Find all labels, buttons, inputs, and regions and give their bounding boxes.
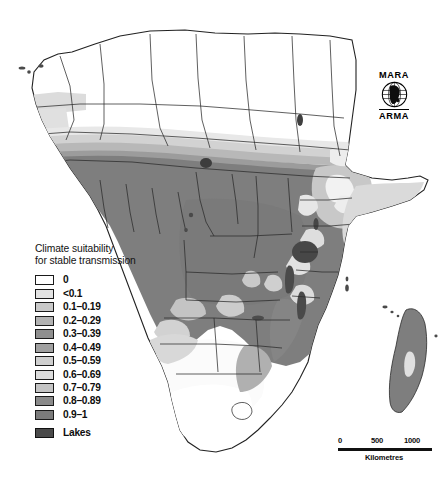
island-comoros-2 xyxy=(390,311,393,314)
legend-label-4: 0.3–0.39 xyxy=(63,329,101,339)
scalebar-caption: Kilometres xyxy=(338,453,430,462)
region-somalia-lowland xyxy=(342,182,424,248)
legend-label-2: 0.1–0.19 xyxy=(63,302,101,312)
scalebar-tick-500: 500 xyxy=(371,437,383,445)
legend-swatch-6 xyxy=(35,356,54,366)
legend-label-10: 0.9–1 xyxy=(63,410,87,420)
island-comoros-3 xyxy=(397,315,400,317)
lake-nasser xyxy=(297,114,303,126)
mara-arma-logo: MARA ARMA xyxy=(366,70,422,121)
island-mauritius xyxy=(434,335,437,338)
lake-chad xyxy=(200,158,212,168)
legend-item-9[interactable]: 0.8–0.89 xyxy=(35,395,195,408)
legend-swatch-8 xyxy=(35,383,54,393)
legend-label-3: 0.2–0.29 xyxy=(63,316,101,326)
legend-title-line-2: for stable transmission xyxy=(35,255,195,267)
legend-item-4[interactable]: 0.3–0.39 xyxy=(35,328,195,341)
legend-item-1[interactable]: <0.1 xyxy=(35,287,195,300)
legend-label-6: 0.5–0.59 xyxy=(63,356,101,366)
legend-label-8: 0.7–0.79 xyxy=(63,383,101,393)
legend-title-line-1: Climate suitability xyxy=(35,243,195,255)
legend-swatch-0 xyxy=(35,275,54,285)
legend-swatch-1 xyxy=(35,289,54,299)
map-figure: Climate suitability for stable transmiss… xyxy=(0,0,445,478)
island-madeira xyxy=(38,64,43,67)
legend-item-8[interactable]: 0.7–0.79 xyxy=(35,382,195,395)
legend-item-lakes[interactable]: Lakes xyxy=(35,427,195,440)
madagascar xyxy=(389,309,426,413)
island-zanzibar xyxy=(345,284,349,291)
map-scalebar: 0 500 1000 Kilometres xyxy=(338,437,438,462)
map-legend: Climate suitability for stable transmiss… xyxy=(35,243,195,440)
island-canary-1 xyxy=(19,66,26,69)
logo-text-arma: ARMA xyxy=(366,109,422,121)
legend-swatch-2 xyxy=(35,302,54,312)
globe-icon xyxy=(381,81,408,108)
island-canary-2 xyxy=(27,70,31,74)
legend-item-3[interactable]: 0.2–0.29 xyxy=(35,314,195,327)
island-sao-tome xyxy=(184,228,188,232)
legend-label-9: 0.8–0.89 xyxy=(63,396,101,406)
scalebar-tick-0: 0 xyxy=(338,437,342,445)
scalebar-line xyxy=(338,448,432,451)
legend-item-2[interactable]: 0.1–0.19 xyxy=(35,301,195,314)
legend-swatch-10 xyxy=(35,410,54,420)
legend-swatch-5 xyxy=(35,343,54,353)
legend-label-7: 0.6–0.69 xyxy=(63,370,101,380)
legend-item-6[interactable]: 0.5–0.59 xyxy=(35,355,195,368)
lake-turkana xyxy=(313,218,318,230)
scalebar-tick-1000: 1000 xyxy=(404,437,420,445)
region-somalia-coast-dark xyxy=(346,234,372,256)
legend-item-10[interactable]: 0.9–1 xyxy=(35,409,195,422)
scalebar-ticks: 0 500 1000 xyxy=(338,437,430,447)
island-comoros-1 xyxy=(382,306,387,309)
legend-swatch-4 xyxy=(35,329,54,339)
legend-label-5: 0.4–0.49 xyxy=(63,343,101,353)
legend-swatch-3 xyxy=(35,316,54,326)
legend-label-0: 0 xyxy=(63,275,68,285)
logo-text-mara: MARA xyxy=(366,70,422,80)
legend-item-7[interactable]: 0.6–0.69 xyxy=(35,368,195,381)
island-bioko xyxy=(189,213,193,217)
legend-item-0[interactable]: 0 xyxy=(35,274,195,287)
legend-swatch-9 xyxy=(35,396,54,406)
legend-swatch-lakes xyxy=(35,428,54,438)
legend-label-1: <0.1 xyxy=(63,289,82,299)
legend-swatch-7 xyxy=(35,370,54,380)
legend-label-lakes: Lakes xyxy=(63,428,91,438)
legend-title: Climate suitability for stable transmiss… xyxy=(35,243,195,268)
legend-item-5[interactable]: 0.4–0.49 xyxy=(35,341,195,354)
island-pemba xyxy=(346,277,349,282)
region-eritrea xyxy=(330,148,360,166)
